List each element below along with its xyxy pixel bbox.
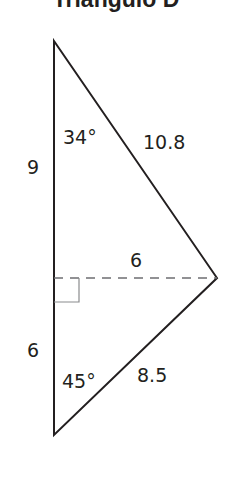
label-left-upper-segment: 9	[27, 158, 39, 177]
label-upper-hypotenuse: 10.8	[143, 133, 185, 152]
label-top-angle: 34°	[63, 128, 97, 147]
triangle-diagram	[0, 0, 232, 477]
label-altitude-length: 6	[130, 251, 142, 270]
right-angle-marker	[54, 278, 79, 302]
label-bottom-angle: 45°	[62, 372, 96, 391]
label-lower-hypotenuse: 8.5	[137, 366, 167, 385]
label-left-lower-segment: 6	[27, 341, 39, 360]
